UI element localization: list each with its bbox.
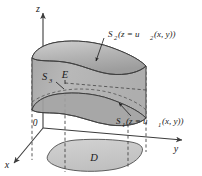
x-axis-label: x — [4, 159, 10, 170]
bottom-surface-equation-subscript: 1 — [158, 121, 161, 128]
lateral-surface-label-S3-base: S — [42, 71, 48, 82]
y-axis-line — [43, 128, 182, 140]
bottom-surface-label-S1-subscript: 1 — [122, 121, 125, 128]
top-surface-equation-close: (x, y)) — [154, 29, 175, 39]
top-surface-label-S2-base: S — [108, 29, 113, 39]
origin-label: 0 — [33, 118, 38, 128]
bottom-surface-equation-close: (x, y)) — [162, 116, 183, 126]
bottom-surface-equation-open: (z = u — [126, 116, 148, 126]
base-region-label-D: D — [89, 152, 98, 163]
y-axis-label: y — [173, 143, 179, 154]
x-axis-line — [14, 128, 43, 163]
solid-region-label-E: E — [61, 69, 69, 80]
top-surface-label-S2: S 2 (z = u 2 (x, y)) — [108, 29, 175, 41]
z-axis-label: z — [35, 3, 40, 14]
type-1-solid-region-diagram: z y x 0 E D S 3 S 2 (z = u 2 (x, y)) S 1… — [0, 0, 202, 176]
top-surface-equation-open: (z = u — [118, 29, 140, 39]
bottom-surface-label-S1: S 1 (z = u 1 (x, y)) — [116, 116, 183, 128]
bottom-surface-label-S1-base: S — [116, 116, 121, 126]
figure-container: z y x 0 E D S 3 S 2 (z = u 2 (x, y)) S 1… — [0, 0, 202, 176]
